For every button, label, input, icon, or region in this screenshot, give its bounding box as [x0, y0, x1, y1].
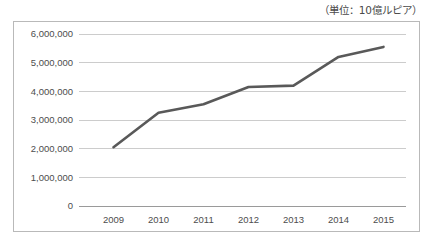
x-axis-tick-label: 2014: [328, 214, 349, 225]
line-chart: 01,000,0002,000,0003,000,0004,000,0005,0…: [14, 22, 421, 233]
x-axis-tick-label: 2015: [373, 214, 394, 225]
y-axis-tick-label: 0: [68, 200, 73, 211]
y-axis-tick-label: 3,000,000: [31, 114, 73, 125]
x-axis-tick-label: 2011: [193, 214, 213, 225]
x-axis-tick-label: 2009: [103, 214, 124, 225]
x-axis-tick-label: 2012: [238, 214, 259, 225]
y-axis-tick-label: 2,000,000: [31, 143, 73, 154]
x-axis-tick-label: 2013: [283, 214, 304, 225]
y-axis-tick-label: 1,000,000: [31, 172, 73, 183]
gridlines-group: [79, 34, 406, 206]
y-axis-tick-label: 5,000,000: [31, 57, 73, 68]
x-axis-tick-label: 2010: [148, 214, 169, 225]
chart-figure: （単位：10億ルピア） 01,000,0002,000,0003,000,000…: [0, 0, 433, 241]
y-axis-tick-label: 4,000,000: [31, 86, 73, 97]
unit-caption: （単位：10億ルピア）: [319, 2, 422, 17]
chart-plot-frame: 01,000,0002,000,0003,000,0004,000,0005,0…: [13, 21, 420, 232]
x-axis-tick-labels: 2009201020112012201320142015: [103, 214, 394, 225]
y-axis-tick-labels: 01,000,0002,000,0003,000,0004,000,0005,0…: [31, 28, 73, 211]
y-axis-tick-label: 6,000,000: [31, 28, 73, 39]
data-series-line: [114, 47, 384, 147]
